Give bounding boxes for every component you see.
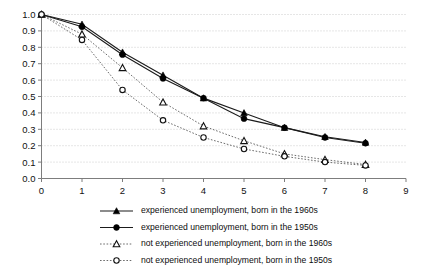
- legend-item-2[interactable]: not experienced unemployment, born in th…: [100, 238, 332, 248]
- series-lines-group: [42, 15, 366, 166]
- y-tick-label-0.6: 0.6: [22, 75, 35, 86]
- line-chart: 0.00.10.20.30.40.50.60.70.80.91.0 012345…: [0, 0, 433, 271]
- y-tick-label-0.3: 0.3: [22, 124, 35, 135]
- x-tick-label-5: 5: [241, 185, 246, 196]
- y-tick-label-0.0: 0.0: [22, 173, 35, 184]
- y-tick-label-1.0: 1.0: [22, 9, 35, 20]
- data-point-s2-x2: [119, 65, 126, 71]
- y-tick-label-0.1: 0.1: [22, 157, 35, 168]
- data-point-s1-x1: [79, 24, 85, 30]
- chart-canvas: 0.00.10.20.30.40.50.60.70.80.91.0 012345…: [0, 0, 433, 271]
- gridlines-group: [42, 15, 407, 179]
- data-point-s1-x7: [322, 135, 328, 141]
- x-tick-label-3: 3: [160, 185, 165, 196]
- y-tick-label-0.8: 0.8: [22, 42, 35, 53]
- data-point-s1-x4: [201, 95, 207, 101]
- data-point-s3-x6: [282, 154, 287, 159]
- legend-item-label: experienced unemployment, born in the 19…: [141, 205, 318, 215]
- data-point-s3-x2: [120, 87, 125, 92]
- x-tick-label-1: 1: [79, 185, 84, 196]
- legend-item-3[interactable]: not experienced unemployment, born in th…: [100, 255, 332, 265]
- x-tick-label-4: 4: [201, 185, 206, 196]
- legend-item-1[interactable]: experienced unemployment, born in the 19…: [100, 222, 318, 232]
- data-point-s2-x3: [160, 99, 167, 105]
- legend-marker-icon: [114, 258, 119, 263]
- series-line-3: [42, 15, 366, 166]
- legend-item-0[interactable]: experienced unemployment, born in the 19…: [100, 205, 318, 215]
- data-point-s1-x8: [363, 140, 369, 146]
- x-tick-label-2: 2: [120, 185, 125, 196]
- series-line-2: [42, 15, 366, 165]
- data-point-s3-x1: [79, 37, 84, 42]
- y-tick-label-0.9: 0.9: [22, 25, 35, 36]
- data-point-s1-x2: [120, 52, 126, 58]
- data-point-s2-x5: [241, 137, 248, 143]
- x-tick-label-8: 8: [363, 185, 368, 196]
- data-point-s3-x7: [322, 159, 327, 164]
- x-tick-label-9: 9: [403, 185, 408, 196]
- series-markers-group: [38, 11, 369, 168]
- chart-legend: experienced unemployment, born in the 19…: [100, 205, 332, 265]
- data-point-s1-x3: [160, 76, 166, 82]
- y-tick-label-0.5: 0.5: [22, 91, 35, 102]
- x-axis-tick-labels: 0123456789: [39, 185, 409, 196]
- data-point-s1-x6: [282, 125, 288, 131]
- data-point-s3-x0: [39, 12, 44, 17]
- x-tick-label-0: 0: [39, 185, 44, 196]
- y-tick-label-0.4: 0.4: [22, 107, 35, 118]
- data-point-s3-x5: [241, 146, 246, 151]
- y-tick-label-0.7: 0.7: [22, 58, 35, 69]
- legend-marker-icon: [114, 225, 120, 231]
- legend-item-label: experienced unemployment, born in the 19…: [141, 222, 318, 232]
- legend-item-label: not experienced unemployment, born in th…: [141, 238, 332, 248]
- data-point-s2-x4: [200, 123, 207, 129]
- x-tick-label-6: 6: [282, 185, 287, 196]
- data-point-s3-x8: [363, 163, 368, 168]
- data-point-s2-x1: [79, 31, 86, 37]
- data-point-s3-x3: [160, 118, 165, 123]
- data-point-s1-x5: [241, 116, 247, 122]
- y-axis-tick-labels: 0.00.10.20.30.40.50.60.70.80.91.0: [22, 9, 35, 184]
- legend-item-label: not experienced unemployment, born in th…: [141, 255, 332, 265]
- x-tick-label-7: 7: [322, 185, 327, 196]
- data-point-s3-x4: [201, 135, 206, 140]
- axes-group: [38, 15, 406, 183]
- y-tick-label-0.2: 0.2: [22, 140, 35, 151]
